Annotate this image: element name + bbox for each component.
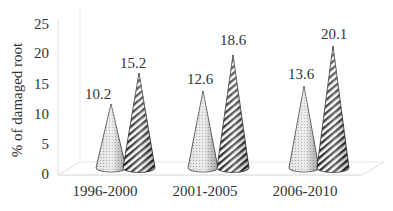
x-axis: 1996-2000 2001-2005 2006-2010 (73, 183, 338, 199)
y-tick: 5 (42, 136, 50, 152)
value-label: 13.6 (288, 66, 315, 82)
y-tick: 10 (34, 106, 49, 122)
value-label: 20.1 (321, 26, 347, 42)
y-tick: 20 (34, 45, 49, 61)
y-tick: 0 (42, 166, 50, 182)
y-tick: 25 (34, 16, 49, 32)
cone-group-1996-2000: 10.2 15.2 (85, 55, 155, 173)
cone-striped (123, 73, 155, 173)
cone-group-2006-2010: 13.6 20.1 (288, 26, 349, 173)
cone-striped (317, 46, 349, 173)
cone-dotted (188, 91, 218, 172)
x-tick-label: 2001-2005 (173, 183, 238, 199)
value-label: 12.6 (187, 71, 214, 87)
y-axis-label: % of damaged root (9, 42, 25, 157)
x-tick-label: 2006-2010 (273, 183, 338, 199)
x-tick-label: 1996-2000 (73, 183, 138, 199)
value-label: 10.2 (85, 86, 111, 102)
cone-chart: 0 5 10 15 20 25 % of damaged root 10.2 1… (0, 0, 393, 211)
cone-group-2001-2005: 12.6 18.6 (187, 32, 249, 173)
y-tick: 15 (34, 76, 49, 92)
cone-striped (217, 55, 249, 173)
value-label: 15.2 (120, 55, 146, 71)
cone-dotted (96, 104, 126, 172)
y-axis: 0 5 10 15 20 25 % of damaged root (9, 16, 49, 182)
value-label: 18.6 (220, 32, 247, 48)
cone-dotted (289, 86, 319, 172)
